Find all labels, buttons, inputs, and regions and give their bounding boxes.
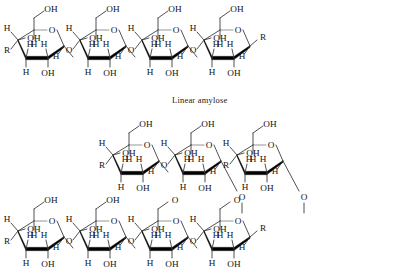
glucose-8: OOHHHROHHHOHHH [4,195,64,269]
bond-c4-h [73,32,80,40]
c2-hydrogen-label: H [136,154,143,164]
bond-c4-x [230,155,237,164]
bond-c4-h [197,32,204,40]
c4-hydrogen-label: H [161,138,168,148]
c2-hydroxyl-label: OH [136,183,150,193]
c4-hydrogen-label: H [190,23,197,33]
branch-oxygen-label: O [301,192,308,202]
c2-hydrogen-label: H [260,154,267,164]
ring-oxygen-label: O [206,140,213,150]
c3-upper-hydrogen-label: H [89,39,96,49]
bond-c4-c3-bold [204,231,212,251]
c6-substituent-label: OH [106,4,120,14]
c3-upper-hydrogen-label: H [27,39,34,49]
middle-row-branch-chains: OOHHHROHHHOHHHOOHHHOOHHHOHHHOOOHHHROHHHO… [99,119,308,213]
bond-c3-c2-bold [26,56,48,59]
c4-glycosidic-oxygen-label: O [190,45,197,55]
bond-c3-c2-bold [183,171,205,174]
c3-upper-hydrogen-label: H [184,154,191,164]
c4-glycosidic-oxygen-label: O [190,236,197,246]
c1-hydrogen-label: H [53,51,60,61]
c4-glycosidic-oxygen-label: O [66,45,73,55]
c3-hydrogen-label: H [23,67,30,77]
bond-c4-c3-bold [18,40,26,60]
bond-oring-c1 [214,145,221,161]
bond-c4-x [135,40,142,49]
terminal-residue-label: R [260,223,267,233]
chemical-structure-svg: OOHHHROHHHOHHHOOHHHOOHHHOHHHOOHHHOOHHHOH… [0,0,399,280]
c4-residue-label: R [223,160,230,170]
bond-oring-c1 [119,30,126,46]
c1-hydrogen-label: H [53,242,60,252]
c3-upper-hydrogen-label: H [89,230,96,240]
bond-c6-o6 [220,202,230,209]
c2-hydroxyl-label: OH [227,259,241,269]
bond-c4-x [135,231,142,240]
c6-substituent-label: OH [106,195,120,205]
c3-hydrogen-label: H [147,258,154,268]
bond-c4-x [197,40,204,49]
ring-oxygen-label: O [111,25,118,35]
bottom-row-main-chain: OOHHHROHHHOHHHOOHHHOOHHHOHHHOOHHOOHHHOHH… [4,195,267,269]
bond-c4-c3-bold [18,231,26,251]
glucose-1: OOHHHROHHHOHHH [4,4,64,78]
c3-hydrogen-label: H [209,67,216,77]
bond-c4-c3-bold [80,231,88,251]
c6-substituent-label: OH [168,4,182,14]
bond-c1-residue [250,231,257,237]
c6-substituent-label: OH [201,119,215,129]
bond-c6-o6 [129,126,139,133]
bond-c4-x [106,155,113,164]
c2-hydrogen-label: H [103,230,110,240]
bond-c3-c2-bold [121,171,143,174]
bond-c4-c3-bold [80,40,88,60]
bond-c1-branch-descent [283,161,299,191]
c3-upper-hydrogen-label: H [122,154,129,164]
ring-oxygen-label: O [144,140,151,150]
glucose-4: OOHHHOOHHHOHHH [190,4,250,78]
bond-c6-o6 [220,11,230,18]
c3-hydrogen-label: H [147,67,154,77]
c4-hydrogen-label: H [99,138,106,148]
bond-c4-h [73,223,80,231]
c2-hydroxyl-label: OH [198,183,212,193]
bond-c6-o6 [34,11,44,18]
bond-c4-x [168,155,175,164]
glucose-9: OOHHHOOHHHOHHH [66,195,126,269]
c1-hydrogen-label: H [115,242,122,252]
c1-hydrogen-label: H [239,242,246,252]
bond-c3-c2-bold [245,171,267,174]
c4-residue-label: R [4,45,11,55]
bond-c4-c3-bold [237,155,245,175]
bond-oring-c1 [181,30,188,46]
c6-substituent-label: OH [230,4,244,14]
c1-hydrogen-label: H [239,51,246,61]
bond-oring-c1 [119,221,126,237]
c6-substituent-label: OH [263,119,277,129]
bond-c4-x [11,40,18,49]
c2-hydrogen-label: H [165,39,172,49]
c4-hydrogen-label: H [128,23,135,33]
c4-residue-label: R [99,160,106,170]
bond-c3-c2-bold [26,247,48,250]
bond-oring-c1 [276,145,283,161]
bond-c4-c3-bold [204,40,212,60]
bond-c4-x [73,40,80,49]
c3-hydrogen-label: H [242,182,249,192]
c6-substituent-label: O [172,195,179,205]
c2-hydrogen-label: H [103,39,110,49]
c4-glycosidic-oxygen-label: O [128,45,135,55]
bond-c4-h [230,147,237,155]
c6-substituent-label: OH [139,119,153,129]
top-row-linear-amylose: OOHHHROHHHOHHHOOHHHOOHHHOHHHOOHHHOOHHHOH… [4,4,267,78]
c4-hydrogen-label: H [4,23,11,33]
c1-hydrogen-label: H [148,166,155,176]
bond-c6-o6 [96,202,106,209]
c3-hydrogen-label: H [23,258,30,268]
c3-upper-hydrogen-label: H [246,154,253,164]
bond-c4-h [11,32,18,40]
c3-hydrogen-label: H [180,182,187,192]
c2-hydroxyl-label: OH [227,68,241,78]
bond-c4-h [197,223,204,231]
terminal-residue: R [250,32,267,46]
